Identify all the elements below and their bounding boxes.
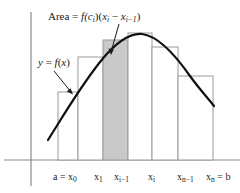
rectangle-4 xyxy=(128,33,152,160)
axis-label-x1: x1 xyxy=(94,171,103,184)
axis-label-xn-minus-1: xn−1 xyxy=(177,171,194,184)
riemann-sum-figure: Area = f(ci)(xi − xi−1) y = f(x) a = x0 … xyxy=(0,0,240,193)
axis-label-xi-minus-1: xi−1 xyxy=(114,171,129,184)
rectangle-1 xyxy=(58,92,78,160)
rectangle-3-highlighted xyxy=(103,40,128,160)
rectangle-5 xyxy=(152,47,178,160)
axis-label-xi: xi xyxy=(148,171,155,184)
rectangle-6 xyxy=(178,76,213,160)
area-formula-label: Area = f(ci)(xi − xi−1) xyxy=(48,10,141,24)
axis-label-xn: xn = b xyxy=(206,171,230,184)
riemann-rectangles xyxy=(58,33,213,160)
function-arrow xyxy=(54,71,73,95)
rectangle-2 xyxy=(78,57,103,160)
function-label: y = f(x) xyxy=(37,56,70,69)
axis-label-x0: a = x0 xyxy=(53,171,77,184)
